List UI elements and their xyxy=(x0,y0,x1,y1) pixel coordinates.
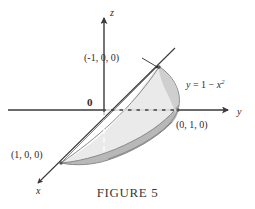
point-dot-y-intercept xyxy=(176,108,179,111)
leader-arrow-neg-x xyxy=(142,58,159,68)
point-dot-pos-x xyxy=(59,161,62,164)
surface-equation-label: y = 1 − x2 xyxy=(186,79,224,90)
equation-exponent: 2 xyxy=(221,78,224,85)
point-label-y-intercept: (0, 1, 0) xyxy=(176,120,208,130)
origin-label: 0 xyxy=(87,97,93,108)
z-axis-label: z xyxy=(110,8,114,18)
point-dot-neg-x xyxy=(157,65,160,68)
point-label-pos-x: (1, 0, 0) xyxy=(11,150,43,160)
figure-container: z y x 0 (-1, 0, 0) (1, 0, 0) (0, 1, 0) y… xyxy=(0,0,255,209)
y-axis-label: y xyxy=(237,107,241,117)
three-d-surface-diagram xyxy=(0,0,255,209)
figure-caption: FIGURE 5 xyxy=(0,185,255,201)
point-label-neg-x: (-1, 0, 0) xyxy=(84,53,119,63)
